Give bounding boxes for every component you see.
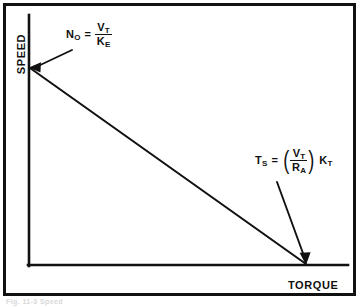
no-speed-denominator-subscript: E [105, 40, 110, 49]
ts-torque-denominator: RA [291, 162, 307, 173]
ts-torque-open-paren: ( [283, 150, 289, 171]
ts-torque-formula: TS = ( VT RA ) KT [255, 148, 332, 173]
ts-torque-numerator: VT [292, 148, 307, 159]
no-speed-formula: NO = VT KE [66, 22, 112, 47]
ts-torque-fraction: VT RA [290, 148, 307, 173]
x-axis-label-torque: TORQUE [288, 279, 338, 291]
no-speed-denominator-symbol: K [97, 35, 105, 47]
ts-torque-denominator-subscript: A [300, 166, 306, 175]
no-speed-lhs-subscript: O [74, 33, 80, 42]
ts-torque-denominator-symbol: R [292, 161, 300, 173]
no-speed-numerator: VT [96, 22, 111, 33]
ts-torque-numerator-subscript: T [300, 152, 305, 161]
ts-torque-equals-sign: = [271, 155, 277, 166]
no-speed-fraction: VT KE [95, 22, 112, 47]
no-speed-lhs-symbol: N [66, 28, 74, 40]
y-axis-label-speed: SPEED [15, 24, 27, 84]
ts-torque-lhs-subscript: S [262, 159, 267, 168]
no-speed-numerator-symbol: V [97, 21, 105, 33]
no-speed-numerator-subscript: T [105, 26, 110, 35]
ts-torque-lhs: TS [255, 155, 267, 166]
figure-root: SPEED TORQUE NO = VT KE TS = ( VT RA ) K… [0, 0, 363, 307]
ts-torque-lhs-symbol: T [255, 154, 262, 166]
no-speed-denominator: KE [96, 36, 112, 47]
ts-torque-close-paren: ) [309, 150, 315, 171]
bottom-caption: Fig. 11-3 Speed [6, 298, 63, 306]
ts-torque-trailing-term: KT [319, 155, 332, 166]
no-speed-lhs: NO [66, 29, 80, 40]
no-speed-equals-sign: = [84, 29, 90, 40]
ts-torque-trailing-subscript: T [327, 159, 332, 168]
